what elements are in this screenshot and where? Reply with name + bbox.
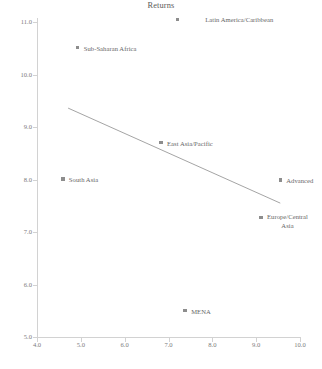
x-tick-label: 8.0: [195, 341, 229, 348]
data-point-marker[interactable]: [61, 177, 64, 180]
x-tick-label: 10.0: [283, 341, 317, 348]
x-tick-label: 7.0: [152, 341, 186, 348]
returns-scatter-chart: Returns 5.06.07.08.09.010.011.0 4.05.06.…: [0, 0, 322, 369]
data-point-marker[interactable]: [76, 46, 79, 49]
data-point-marker[interactable]: [176, 18, 179, 21]
data-point-label: East Asia/Pacific: [167, 140, 213, 148]
data-point-label: Europe/Central Asia: [267, 213, 308, 229]
data-point-label: South Asia: [69, 176, 98, 184]
data-point-marker[interactable]: [259, 216, 262, 219]
x-axis-tick-labels: 4.05.06.07.08.09.010.0: [0, 0, 322, 369]
x-tick-label: 9.0: [239, 341, 273, 348]
data-point-marker[interactable]: [183, 309, 186, 312]
data-point-label: Latin America/Caribbean: [205, 16, 273, 24]
data-point-marker[interactable]: [279, 178, 282, 181]
x-tick-label: 4.0: [20, 341, 54, 348]
data-point-label: Sub-Saharan Africa: [84, 45, 137, 53]
x-tick-label: 6.0: [108, 341, 142, 348]
data-point-marker[interactable]: [159, 141, 162, 144]
data-point-label: Advanced: [286, 177, 313, 185]
x-tick-label: 5.0: [64, 341, 98, 348]
data-point-label: MENA: [191, 308, 211, 316]
